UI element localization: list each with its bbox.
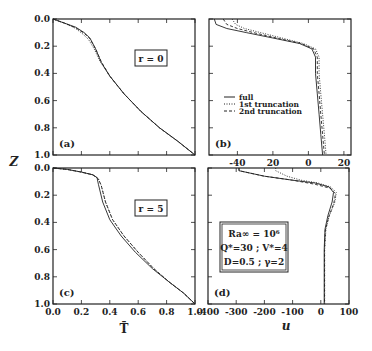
series-dashed xyxy=(53,19,195,155)
x-axis-title-velocity: u xyxy=(282,319,291,333)
x-tick-label: 0 xyxy=(318,307,324,317)
y-tick-label: 0.0 xyxy=(34,163,50,173)
x-tick-label: 20 xyxy=(267,158,280,168)
x-tick-label: 100 xyxy=(340,307,359,317)
parameter-box: Ra∞ = 10⁶ Q*=30 ; V*=4 D=0.5 ; γ=2 xyxy=(220,222,288,272)
panel-a: 0.00.20.40.60.81.0(a)r = 0 xyxy=(34,14,195,160)
x-tick-label: 0.6 xyxy=(130,307,146,317)
panel-label: (c) xyxy=(59,287,75,298)
y-tick-label: 0.6 xyxy=(34,245,50,255)
plot-canvas: 0.00.20.40.60.81.0(a)r = 0-4020020(b)0.0… xyxy=(0,0,372,351)
y-tick-label: 0.4 xyxy=(34,217,50,227)
x-axis-title-temperature: T̄ xyxy=(120,320,129,336)
y-tick-label: 1.0 xyxy=(34,150,50,160)
series-dotted xyxy=(276,168,337,304)
series-dashed xyxy=(53,168,195,304)
y-tick-label: 0.8 xyxy=(34,123,50,133)
annotation-label: r = 0 xyxy=(139,54,164,64)
parameter-rayleigh: Ra∞ = 10⁶ xyxy=(228,229,279,239)
x-tick-label: -200 xyxy=(253,307,276,317)
x-tick-label: -300 xyxy=(225,307,248,317)
x-tick-label: 20 xyxy=(338,158,351,168)
y-tick-label: 0.2 xyxy=(34,190,50,200)
x-tick-label: -40 xyxy=(229,158,245,168)
panel-label: (b) xyxy=(215,138,231,149)
x-tick-label: 0.4 xyxy=(102,307,118,317)
panel-label: (d) xyxy=(214,287,230,298)
annotation-label: r = 5 xyxy=(139,204,164,214)
parameter-d-gamma: D=0.5 ; γ=2 xyxy=(224,257,284,267)
y-tick-label: 0.0 xyxy=(34,14,50,24)
axes-frame xyxy=(53,19,195,155)
series-dashed xyxy=(223,19,324,155)
series-dotted xyxy=(53,19,195,155)
x-tick-label: -100 xyxy=(281,307,304,317)
x-tick-label: 0.2 xyxy=(74,307,90,317)
y-tick-label: 0.6 xyxy=(34,96,50,106)
panel-label: (a) xyxy=(59,138,75,149)
figure: 0.00.20.40.60.81.0(a)r = 0-4020020(b)0.0… xyxy=(0,0,372,351)
panel-c: 0.00.20.40.60.81.00.00.20.40.60.81.0(c)r… xyxy=(34,163,203,317)
panel-b: -4020020(b) xyxy=(209,19,351,168)
x-tick-label: -400 xyxy=(197,307,220,317)
y-tick-label: 0.4 xyxy=(34,68,50,78)
series-solid xyxy=(214,19,322,155)
y-axis-title: Z xyxy=(9,155,20,169)
x-tick-label: 0.8 xyxy=(159,307,175,317)
x-tick-label: 0.0 xyxy=(45,307,61,317)
series-solid xyxy=(53,19,195,155)
y-tick-label: 0.8 xyxy=(34,272,50,282)
legend-label-2nd: 2nd truncation xyxy=(239,107,303,116)
legend: full 1st truncation 2nd truncation xyxy=(224,93,303,116)
y-tick-label: 0.2 xyxy=(34,41,50,51)
x-tick-label: 0 xyxy=(305,158,311,168)
parameter-q-v: Q*=30 ; V*=4 xyxy=(220,243,288,253)
